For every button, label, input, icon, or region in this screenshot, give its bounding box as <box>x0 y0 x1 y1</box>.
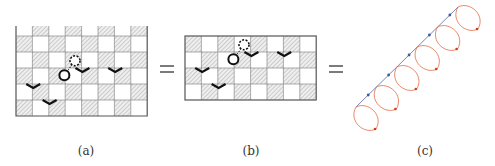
lattice-cell <box>185 36 201 52</box>
helix-loop <box>415 46 439 71</box>
lattice-cell <box>131 52 147 68</box>
figure-canvas <box>0 0 495 166</box>
helix-loop <box>456 6 480 31</box>
lattice-cell <box>82 36 98 52</box>
lattice-cell <box>16 52 32 68</box>
lattice-cell <box>218 36 234 52</box>
lattice-cell <box>32 52 48 68</box>
lattice-cell <box>114 100 130 116</box>
helix-node-dot <box>428 34 431 37</box>
lattice-cell <box>32 36 48 52</box>
lattice-cell <box>300 52 316 68</box>
defect-dashed-circle-icon <box>70 56 80 66</box>
equals-sign-1 <box>160 66 174 72</box>
defect-circle-icon <box>228 54 238 64</box>
helix-loop <box>374 86 398 111</box>
caption-b: (b) <box>242 144 259 158</box>
lattice-cell <box>16 68 32 84</box>
lattice-cell <box>98 100 114 116</box>
lattice-cell <box>98 84 114 100</box>
lattice-cell <box>98 36 114 52</box>
lattice-cell <box>218 68 234 84</box>
lattice-cell <box>251 68 267 84</box>
lattice-cell <box>65 36 81 52</box>
lattice-cell <box>98 52 114 68</box>
lattice-cell <box>283 68 299 84</box>
lattice-cell <box>131 36 147 52</box>
helix-loop <box>395 66 419 91</box>
lattice-cell <box>251 36 267 52</box>
helix-node-dot <box>367 94 370 97</box>
lattice-cell <box>267 84 283 100</box>
caption-a: (a) <box>78 144 95 158</box>
lattice-cell <box>234 68 250 84</box>
lattice-cell <box>201 52 217 68</box>
lattice-cell <box>283 84 299 100</box>
defect-circle-icon <box>59 70 69 80</box>
panel-a-lattice <box>16 26 147 116</box>
caption-c: (c) <box>417 144 433 158</box>
lattice-cell <box>65 84 81 100</box>
lattice-cell <box>65 100 81 116</box>
helix-node-dot <box>408 54 411 57</box>
lattice-cell <box>185 84 201 100</box>
lattice-cell <box>49 36 65 52</box>
equals-sign-2 <box>329 66 343 72</box>
helix-node-dot <box>387 74 390 77</box>
lattice-cell <box>251 84 267 100</box>
helix-loop <box>435 26 459 51</box>
lattice-cell <box>114 84 130 100</box>
lattice-cell <box>131 84 147 100</box>
lattice-cell <box>300 36 316 52</box>
lattice-cell <box>49 52 65 68</box>
lattice-cell <box>283 36 299 52</box>
helix-node-dot <box>448 14 451 17</box>
lattice-cell <box>267 36 283 52</box>
lattice-cell <box>234 84 250 100</box>
lattice-cell <box>300 68 316 84</box>
defect-dashed-circle-icon <box>239 40 249 50</box>
lattice-cell <box>300 84 316 100</box>
helix-loop <box>354 106 378 131</box>
lattice-cell <box>131 100 147 116</box>
lattice-cell <box>82 84 98 100</box>
lattice-cell <box>131 68 147 84</box>
lattice-cell <box>16 100 32 116</box>
lattice-cell <box>114 36 130 52</box>
lattice-cell <box>49 84 65 100</box>
lattice-cell <box>82 100 98 116</box>
lattice-cell <box>201 36 217 52</box>
lattice-cell <box>267 68 283 84</box>
lattice-cell <box>32 68 48 84</box>
panel-c-helix <box>354 6 480 131</box>
lattice-cell <box>114 52 130 68</box>
lattice-cell <box>185 52 201 68</box>
lattice-cell <box>16 36 32 52</box>
panel-b-lattice <box>185 36 316 100</box>
lattice-cell <box>82 52 98 68</box>
